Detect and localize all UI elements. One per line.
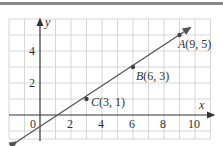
point-c [84,97,88,101]
x-tick-4: 4 [98,117,104,131]
x-tick-10: 10 [188,117,200,131]
coordinate-plane: y x 0 2 4 6 8 10 2 4 A(9, 5) B(6, 3) C(3… [0,0,223,146]
x-tick-6: 6 [129,117,135,131]
x-axis-label: x [198,98,205,112]
point-b-label: B(6, 3) [136,69,169,83]
origin-label: 0 [30,117,36,131]
y-tick-2: 2 [29,76,35,90]
x-tick-2: 2 [67,117,73,131]
x-tick-8: 8 [160,117,166,131]
point-a-label: A(9, 5) [177,37,211,51]
y-axis-label: y [44,15,51,29]
y-tick-4: 4 [29,44,35,58]
point-b [131,65,135,69]
point-c-label: C(3, 1) [91,95,125,109]
